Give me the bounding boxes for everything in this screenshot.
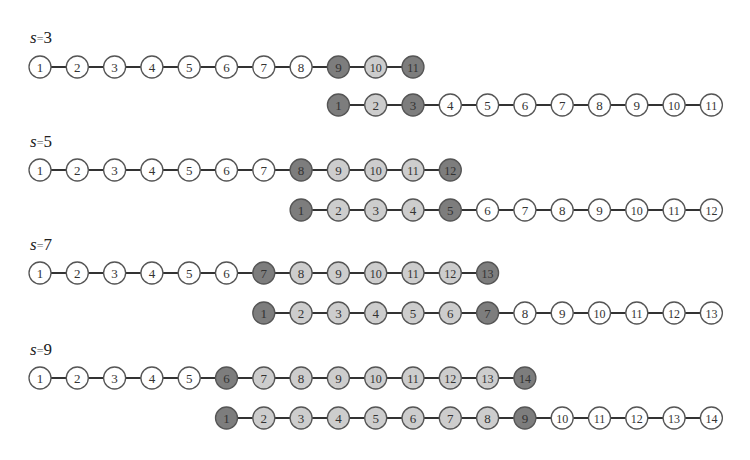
chain-node: 2 [253,407,275,429]
chain-node: 2 [66,159,88,181]
chain-node: 4 [141,159,163,181]
node-number: 3 [111,371,118,386]
node-number: 8 [298,266,305,281]
node-number: 6 [223,371,230,386]
chain-node: 10 [365,262,387,284]
chain-node: 7 [551,94,573,116]
chain-node: 2 [327,199,349,221]
chain-node: 9 [327,159,349,181]
node-number: 14 [519,372,531,386]
chain-node: 3 [327,302,349,324]
node-number: 2 [74,266,81,281]
chain-node: 3 [290,407,312,429]
node-number: 9 [596,203,603,218]
chain-node: 6 [216,159,238,181]
chain-row-0-1: 1234567891011 [327,94,722,116]
node-number: 2 [298,306,305,321]
chain-node: 12 [700,199,722,221]
node-number: 2 [74,163,81,178]
node-number: 14 [705,412,717,426]
chain-node: 7 [253,367,275,389]
chain-node: 11 [700,94,722,116]
node-number: 3 [298,411,305,426]
chain-diagram: 1234567891011123456789101112345678910111… [0,0,750,460]
node-number: 12 [444,164,456,178]
chain-node: 6 [439,302,461,324]
chain-row-0-0: 1234567891011 [29,56,424,78]
node-number: 2 [335,203,342,218]
chain-node: 8 [477,407,499,429]
node-number: 3 [335,306,342,321]
chain-node: 8 [290,262,312,284]
node-number: 13 [482,267,494,281]
chain-node: 2 [365,94,387,116]
node-number: 13 [705,307,717,321]
chain-node: 13 [477,262,499,284]
chain-node: 12 [439,367,461,389]
chain-node: 5 [477,94,499,116]
node-number: 10 [631,204,643,218]
chain-node: 1 [290,199,312,221]
node-number: 11 [407,61,419,75]
chain-node: 5 [178,367,200,389]
chain-node: 6 [216,262,238,284]
chain-node: 3 [104,159,126,181]
node-number: 9 [634,98,641,113]
chain-node: 1 [29,367,51,389]
node-number: 11 [668,204,680,218]
chain-node: 7 [253,262,275,284]
chain-node: 2 [290,302,312,324]
chain-node: 1 [253,302,275,324]
node-number: 1 [37,60,44,75]
node-number: 4 [149,266,156,281]
node-number: 10 [370,372,382,386]
node-number: 6 [223,266,230,281]
node-number: 6 [223,60,230,75]
node-number: 8 [298,371,305,386]
node-number: 10 [556,412,568,426]
node-number: 10 [370,61,382,75]
chain-node: 6 [477,199,499,221]
chain-node: 3 [104,56,126,78]
node-number: 2 [372,98,379,113]
chain-row-1-1: 123456789101112 [290,199,722,221]
node-number: 6 [410,411,417,426]
node-number: 5 [186,266,193,281]
node-number: 11 [407,372,419,386]
chain-node: 3 [402,94,424,116]
chain-node: 1 [216,407,238,429]
chain-node: 3 [104,262,126,284]
chain-node: 4 [402,199,424,221]
chain-node: 11 [589,407,611,429]
chain-node: 11 [402,159,424,181]
node-number: 7 [559,98,566,113]
node-number: 10 [594,307,606,321]
node-number: 12 [631,412,643,426]
node-number: 7 [261,371,268,386]
chain-node: 9 [327,262,349,284]
chain-node: 8 [290,56,312,78]
chain-node: 5 [365,407,387,429]
chain-node: 10 [365,56,387,78]
chain-node: 5 [439,199,461,221]
chain-node: 8 [290,367,312,389]
chain-node: 13 [663,407,685,429]
node-number: 2 [74,371,81,386]
node-number: 10 [370,164,382,178]
node-number: 7 [447,411,454,426]
chain-node: 9 [327,367,349,389]
chain-node: 7 [477,302,499,324]
node-number: 6 [447,306,454,321]
chain-node: 10 [365,367,387,389]
chain-node: 12 [626,407,648,429]
node-number: 3 [372,203,379,218]
node-number: 4 [447,98,454,113]
node-number: 9 [335,163,342,178]
node-number: 8 [298,163,305,178]
chain-node: 1 [29,262,51,284]
node-number: 11 [631,307,643,321]
chain-node: 13 [700,302,722,324]
chain-node: 1 [29,56,51,78]
node-number: 4 [335,411,342,426]
chain-node: 9 [327,56,349,78]
